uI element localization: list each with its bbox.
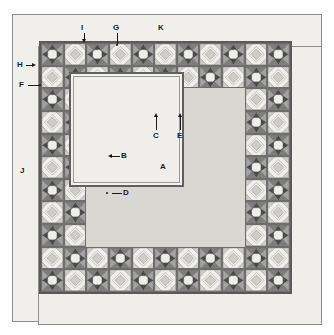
patch-cell xyxy=(222,43,245,66)
patch-cell xyxy=(199,201,222,224)
patch-cell xyxy=(245,179,268,202)
patch-cell xyxy=(154,201,177,224)
label-b: B xyxy=(121,151,127,160)
leader-e xyxy=(180,117,181,130)
label-j: J xyxy=(20,166,25,175)
patch-cell xyxy=(64,269,87,292)
patch-cell xyxy=(132,247,155,270)
patch-cell xyxy=(41,201,64,224)
patch-cell xyxy=(109,224,132,247)
label-g: G xyxy=(113,23,119,32)
quilt-diagram: A B C D E F G H I J K xyxy=(0,0,334,335)
label-i: I xyxy=(81,23,83,32)
patch-cell xyxy=(132,43,155,66)
patch-cell xyxy=(245,43,268,66)
arrowhead-b xyxy=(108,154,112,158)
patch-cell xyxy=(222,179,245,202)
patch-cell xyxy=(222,247,245,270)
patch-cell xyxy=(41,224,64,247)
patch-cell xyxy=(41,111,64,134)
patch-cell xyxy=(86,224,109,247)
patch-cell xyxy=(199,269,222,292)
patch-cell xyxy=(222,201,245,224)
label-d: D xyxy=(123,188,129,197)
patch-cell xyxy=(132,269,155,292)
patch-cell xyxy=(267,88,290,111)
patch-cell xyxy=(199,88,222,111)
label-e: E xyxy=(177,131,183,140)
patch-cell xyxy=(267,269,290,292)
patch-cell xyxy=(245,88,268,111)
patch-cell xyxy=(109,43,132,66)
patch-cell xyxy=(177,43,200,66)
patch-cell xyxy=(222,134,245,157)
patch-cell xyxy=(222,224,245,247)
patch-cell xyxy=(41,88,64,111)
patch-cell xyxy=(245,156,268,179)
patch-cell xyxy=(245,111,268,134)
patch-cell xyxy=(64,224,87,247)
label-a: A xyxy=(160,162,166,171)
label-k: K xyxy=(158,23,164,32)
patch-cell xyxy=(154,224,177,247)
patch-cell xyxy=(267,134,290,157)
patch-cell xyxy=(41,179,64,202)
patch-cell xyxy=(64,43,87,66)
patch-cell xyxy=(132,224,155,247)
patch-cell xyxy=(267,156,290,179)
patch-cell xyxy=(177,224,200,247)
patch-cell xyxy=(267,179,290,202)
patch-cell xyxy=(267,43,290,66)
centre-panel-a xyxy=(69,72,184,187)
patch-cell xyxy=(199,134,222,157)
arrowhead-e xyxy=(178,113,182,117)
patch-cell xyxy=(86,247,109,270)
patch-cell xyxy=(199,247,222,270)
patch-cell xyxy=(222,156,245,179)
patch-cell xyxy=(41,247,64,270)
patch-cell xyxy=(222,66,245,89)
leader-d xyxy=(112,193,122,194)
label-c: C xyxy=(153,131,159,140)
patch-cell xyxy=(41,66,64,89)
leader-dot-d xyxy=(106,192,108,194)
patch-cell xyxy=(154,43,177,66)
patch-cell xyxy=(109,247,132,270)
patch-cell xyxy=(41,43,64,66)
patch-cell xyxy=(199,43,222,66)
patch-cell xyxy=(245,247,268,270)
patch-cell xyxy=(154,247,177,270)
patch-cell xyxy=(199,66,222,89)
patch-cell xyxy=(177,269,200,292)
patch-cell xyxy=(64,247,87,270)
patch-cell xyxy=(222,88,245,111)
patch-cell xyxy=(41,156,64,179)
patch-cell xyxy=(132,201,155,224)
arrowhead-i xyxy=(82,39,86,43)
patch-cell xyxy=(245,134,268,157)
patch-cell xyxy=(267,224,290,247)
patch-cell xyxy=(267,247,290,270)
patch-cell xyxy=(64,201,87,224)
arrowhead-c xyxy=(154,113,158,117)
patch-cell xyxy=(245,269,268,292)
patch-cell xyxy=(222,269,245,292)
arrowhead-h xyxy=(32,63,36,67)
patch-cell xyxy=(267,111,290,134)
patch-cell xyxy=(86,43,109,66)
leader-dot-g xyxy=(116,44,118,46)
patch-cell xyxy=(177,247,200,270)
patch-cell xyxy=(199,111,222,134)
leader-dot-f xyxy=(39,84,41,86)
patch-cell xyxy=(245,224,268,247)
label-f: F xyxy=(19,80,24,89)
patch-cell xyxy=(222,111,245,134)
patch-cell xyxy=(86,269,109,292)
patch-cell xyxy=(41,269,64,292)
patch-cell xyxy=(199,179,222,202)
patch-cell xyxy=(199,224,222,247)
patch-cell xyxy=(267,201,290,224)
patch-cell xyxy=(109,201,132,224)
patch-cell xyxy=(154,269,177,292)
patch-cell xyxy=(86,201,109,224)
